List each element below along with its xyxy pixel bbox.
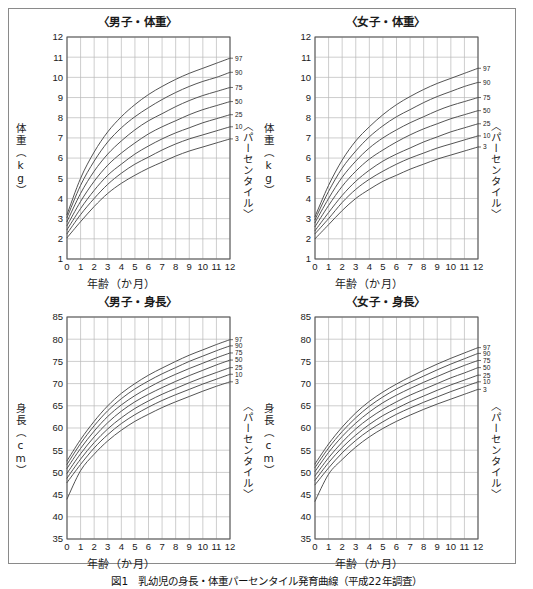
plot-svg-girls-height: 3540455055606570758085012345678910111297…	[289, 311, 504, 561]
svg-text:6: 6	[58, 152, 63, 163]
svg-text:2: 2	[58, 233, 63, 244]
svg-text:3: 3	[105, 541, 110, 552]
svg-text:85: 85	[300, 311, 311, 322]
percentile-axis-label-girls-weight: 〈パーセンタイル〉	[490, 121, 501, 220]
svg-text:4: 4	[367, 541, 372, 552]
svg-text:60: 60	[300, 422, 311, 433]
svg-text:8: 8	[173, 261, 178, 272]
y-axis-label-girls-weight: 体重（kg）	[263, 123, 274, 197]
chart-girls-height: 〈女子・身長〉 身長（cm） 3540455055606570758085012…	[261, 293, 511, 579]
svg-text:35: 35	[52, 533, 63, 544]
svg-text:80: 80	[300, 334, 311, 345]
svg-text:5: 5	[58, 173, 63, 184]
chart-boys-weight: 〈男子・体重〉 体重（kg） 1234567891011120123456789…	[13, 13, 263, 299]
svg-text:10: 10	[52, 72, 63, 83]
svg-text:60: 60	[52, 422, 63, 433]
chart-boys-height: 〈男子・身長〉 身長（cm） 3540455055606570758085012…	[13, 293, 263, 579]
svg-text:8: 8	[58, 112, 63, 123]
y-axis-label-girls-height: 身長（cm）	[263, 403, 274, 477]
figure-caption: 図1 乳幼児の身長・体重パーセンタイル発育曲線（平成22年調査）	[0, 573, 533, 588]
svg-text:11: 11	[211, 261, 221, 272]
svg-text:75: 75	[483, 94, 491, 101]
svg-text:4: 4	[119, 261, 124, 272]
svg-text:5: 5	[380, 541, 385, 552]
svg-text:12: 12	[300, 31, 311, 42]
svg-text:45: 45	[52, 489, 63, 500]
svg-text:10: 10	[235, 371, 243, 378]
svg-text:10: 10	[198, 261, 209, 272]
svg-text:11: 11	[301, 52, 311, 63]
plot-svg-girls-weight: 1234567891011120123456789101112979075502…	[289, 31, 504, 281]
plot-svg-boys-weight: 1234567891011120123456789101112979075502…	[41, 31, 256, 281]
svg-text:3: 3	[483, 386, 487, 393]
svg-text:90: 90	[483, 79, 491, 86]
svg-text:1: 1	[306, 253, 311, 264]
svg-text:40: 40	[52, 511, 63, 522]
svg-text:6: 6	[394, 261, 399, 272]
svg-text:6: 6	[306, 152, 311, 163]
plot-area-girls-weight: 1234567891011120123456789101112979075502…	[289, 31, 504, 281]
svg-text:90: 90	[235, 342, 243, 349]
svg-text:50: 50	[483, 107, 491, 114]
svg-text:7: 7	[159, 541, 164, 552]
svg-text:75: 75	[300, 356, 311, 367]
svg-text:4: 4	[306, 193, 311, 204]
svg-text:90: 90	[235, 69, 243, 76]
svg-text:10: 10	[300, 72, 311, 83]
svg-text:7: 7	[58, 132, 63, 143]
svg-text:7: 7	[159, 261, 164, 272]
svg-text:3: 3	[58, 213, 63, 224]
chart-girls-weight: 〈女子・体重〉 体重（kg） 1234567891011120123456789…	[261, 13, 511, 299]
svg-text:50: 50	[235, 98, 243, 105]
svg-text:2: 2	[92, 261, 97, 272]
svg-text:11: 11	[53, 52, 63, 63]
svg-text:7: 7	[407, 261, 412, 272]
svg-text:75: 75	[52, 356, 63, 367]
svg-text:11: 11	[459, 541, 469, 552]
svg-text:50: 50	[483, 364, 491, 371]
x-axis-label-boys-height: 年齢（か月）	[41, 555, 201, 571]
svg-text:0: 0	[64, 541, 69, 552]
svg-text:8: 8	[306, 112, 311, 123]
svg-text:8: 8	[421, 541, 426, 552]
svg-text:9: 9	[435, 541, 440, 552]
svg-text:2: 2	[340, 261, 345, 272]
svg-text:4: 4	[367, 261, 372, 272]
percentile-axis-label-boys-weight: 〈パーセンタイル〉	[242, 121, 253, 220]
plot-area-boys-height: 3540455055606570758085012345678910111297…	[41, 311, 256, 561]
figure-frame: 〈男子・体重〉 体重（kg） 1234567891011120123456789…	[8, 8, 516, 564]
x-axis-label-girls-weight: 年齢（か月）	[289, 275, 449, 291]
svg-text:5: 5	[132, 541, 137, 552]
svg-text:65: 65	[300, 400, 311, 411]
svg-text:0: 0	[64, 261, 69, 272]
svg-text:75: 75	[483, 357, 491, 364]
y-axis-label-boys-height: 身長（cm）	[15, 403, 26, 477]
svg-text:1: 1	[326, 541, 331, 552]
svg-text:6: 6	[146, 261, 151, 272]
svg-text:3: 3	[105, 261, 110, 272]
chart-title-boys-height: 〈男子・身長〉	[13, 293, 263, 309]
svg-text:7: 7	[306, 132, 311, 143]
chart-title-girls-weight: 〈女子・体重〉	[261, 13, 511, 29]
svg-text:2: 2	[340, 541, 345, 552]
percentile-axis-label-boys-height: 〈パーセンタイル〉	[242, 401, 253, 500]
chart-title-girls-height: 〈女子・身長〉	[261, 293, 511, 309]
svg-text:10: 10	[446, 541, 457, 552]
svg-text:5: 5	[132, 261, 137, 272]
svg-text:4: 4	[58, 193, 63, 204]
svg-text:70: 70	[300, 378, 311, 389]
svg-text:10: 10	[483, 378, 491, 385]
chart-title-boys-weight: 〈男子・体重〉	[13, 13, 263, 29]
svg-text:70: 70	[52, 378, 63, 389]
svg-text:75: 75	[235, 349, 243, 356]
svg-text:97: 97	[235, 55, 243, 62]
svg-text:25: 25	[235, 111, 243, 118]
svg-text:3: 3	[306, 213, 311, 224]
svg-text:3: 3	[483, 143, 487, 150]
svg-text:0: 0	[312, 261, 317, 272]
svg-text:12: 12	[225, 541, 236, 552]
svg-text:55: 55	[300, 445, 311, 456]
svg-text:10: 10	[198, 541, 209, 552]
svg-text:11: 11	[211, 541, 221, 552]
svg-text:11: 11	[459, 261, 469, 272]
